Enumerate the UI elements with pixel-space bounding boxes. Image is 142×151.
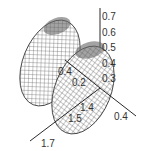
- x-left-tick-1.4: 1.4: [80, 103, 94, 113]
- y-tick-0.4: 0.4: [58, 67, 72, 77]
- z-tick-0.3: 0.3: [102, 74, 116, 84]
- x-right-tick-0.4: 0.4: [114, 112, 128, 122]
- z-tick-0.4: 0.4: [102, 59, 116, 69]
- z-tick-0.6: 0.6: [102, 28, 116, 38]
- x-left-tick-1.5: 1.5: [68, 114, 82, 124]
- x-left-tick-1.7: 1.7: [41, 139, 55, 149]
- y-tick-0.2: 0.2: [72, 78, 86, 88]
- z-tick-0.7: 0.7: [102, 12, 116, 22]
- z-tick-0.5: 0.5: [102, 43, 116, 53]
